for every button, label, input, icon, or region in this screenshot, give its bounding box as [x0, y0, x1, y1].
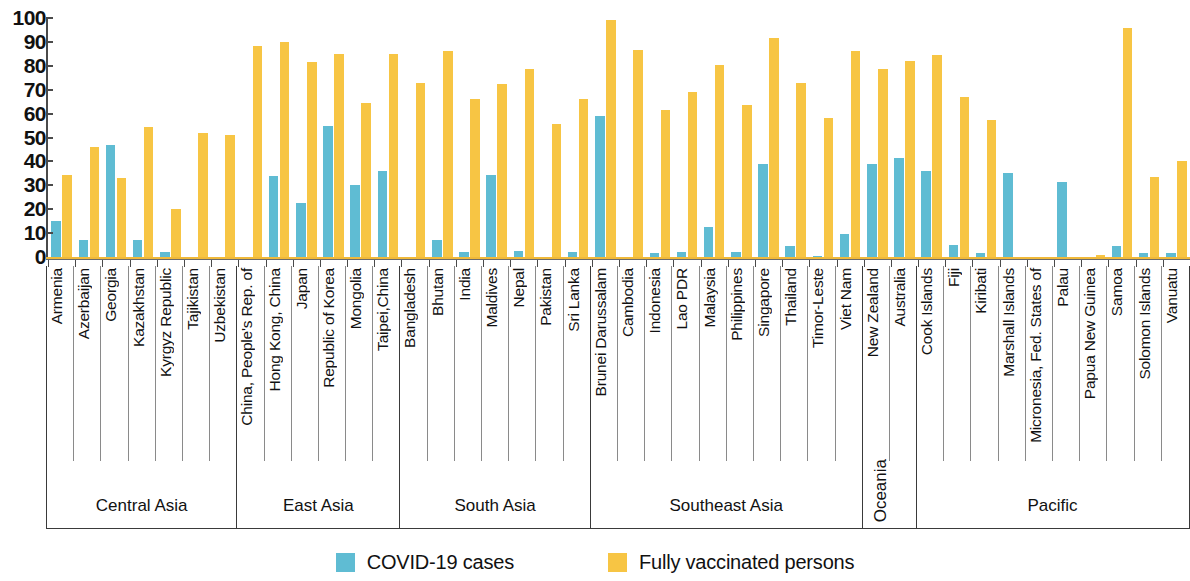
legend-item-cases[interactable]: COVID-19 cases: [336, 551, 514, 574]
y-axis-tick-mark: [46, 17, 53, 19]
bar-fully-vaccinated: [334, 54, 344, 257]
x-axis-tick-mark: [293, 260, 294, 267]
x-axis-tick-mark: [918, 260, 919, 267]
bar-group: [1136, 18, 1163, 257]
x-axis-tick-mark: [755, 260, 756, 267]
bar-group: [401, 18, 428, 257]
y-axis-tick-mark: [46, 89, 53, 91]
bar-covid-cases: [785, 246, 795, 257]
x-axis-tick-mark: [1136, 260, 1137, 267]
bar-group: [537, 18, 564, 257]
y-axis-tick-mark: [46, 184, 53, 186]
bar-group: [211, 18, 238, 257]
y-axis-tick-mark: [46, 113, 53, 115]
bar-fully-vaccinated: [389, 54, 399, 257]
region-cell-east-asia: East Asia: [236, 266, 399, 528]
bar-fully-vaccinated: [878, 69, 888, 257]
y-axis-tick-mark: [46, 208, 53, 210]
bar-group: [1163, 18, 1190, 257]
bar-group: [565, 18, 592, 257]
bar-group: [945, 18, 972, 257]
region-label: Pacific: [917, 496, 1188, 516]
x-axis-tick-mark: [646, 260, 647, 267]
region-bottom-rule: [46, 528, 1190, 529]
x-axis-tick-mark: [837, 260, 838, 267]
x-axis-tick-mark: [1000, 260, 1001, 267]
x-axis-tick-mark: [48, 260, 49, 267]
bar-fully-vaccinated: [769, 38, 779, 257]
x-axis-tick-mark: [238, 260, 239, 267]
x-axis-tick-mark: [510, 260, 511, 267]
bar-fully-vaccinated: [144, 127, 154, 257]
bar-fully-vaccinated: [905, 61, 915, 257]
region-cell-southeast-asia: Southeast Asia: [590, 266, 862, 528]
x-axis-tick-mark: [782, 260, 783, 267]
region-label: Oceania: [871, 459, 891, 522]
plot-area: [48, 18, 1190, 257]
bar-group: [130, 18, 157, 257]
y-axis-tick-label: 20: [2, 198, 46, 219]
bar-covid-cases: [106, 145, 116, 257]
legend-label: Fully vaccinated persons: [639, 551, 854, 574]
bar-group: [157, 18, 184, 257]
x-axis-tick-mark: [374, 260, 375, 267]
bar-covid-cases: [1112, 246, 1122, 257]
bar-covid-cases: [378, 171, 388, 257]
legend-item-vaccinated[interactable]: Fully vaccinated persons: [608, 551, 854, 574]
bar-fully-vaccinated: [824, 118, 834, 257]
bar-group: [864, 18, 891, 257]
y-axis-tick-mark: [46, 232, 53, 234]
bar-fully-vaccinated: [851, 51, 861, 257]
legend-swatch-icon: [608, 553, 627, 572]
region-label: Central Asia: [47, 496, 236, 516]
legend-swatch-icon: [336, 553, 355, 572]
x-axis-tick-mark: [592, 260, 593, 267]
bar-covid-cases: [867, 164, 877, 257]
bar-group: [483, 18, 510, 257]
bar-group: [510, 18, 537, 257]
x-axis-tick-mark: [429, 260, 430, 267]
bar-fully-vaccinated: [579, 99, 589, 257]
y-axis-tick-label: 0: [2, 246, 46, 267]
bar-fully-vaccinated: [1150, 177, 1160, 257]
x-axis-tick-mark: [945, 260, 946, 267]
x-axis-tick-mark: [483, 260, 484, 267]
bar-group: [891, 18, 918, 257]
y-axis-tick-label: 60: [2, 103, 46, 124]
bar-group: [646, 18, 673, 257]
bar-covid-cases: [704, 227, 714, 257]
bar-covid-cases: [323, 126, 333, 257]
y-axis-tick-label: 40: [2, 150, 46, 171]
x-axis-tick-mark: [75, 260, 76, 267]
bar-group: [293, 18, 320, 257]
region-cell-central-asia: Central Asia: [46, 266, 236, 528]
x-axis-tick-mark: [809, 260, 810, 267]
bar-group: [429, 18, 456, 257]
bar-group: [184, 18, 211, 257]
region-label: South Asia: [400, 496, 589, 516]
bar-group: [1081, 18, 1108, 257]
bar-fully-vaccinated: [280, 42, 290, 257]
bar-group: [1027, 18, 1054, 257]
bar-group: [1000, 18, 1027, 257]
bar-fully-vaccinated: [987, 120, 997, 257]
region-cell-south-asia: South Asia: [399, 266, 589, 528]
bar-group: [374, 18, 401, 257]
bar-group: [619, 18, 646, 257]
bar-covid-cases: [296, 203, 306, 257]
bar-fully-vaccinated: [606, 20, 616, 257]
bar-group: [320, 18, 347, 257]
chart-legend: COVID-19 casesFully vaccinated persons: [0, 545, 1190, 579]
bar-group: [238, 18, 265, 257]
bar-fully-vaccinated: [470, 99, 480, 257]
bar-fully-vaccinated: [253, 46, 263, 258]
bar-group: [782, 18, 809, 257]
x-axis-tick-mark: [537, 260, 538, 267]
bar-fully-vaccinated: [796, 83, 806, 257]
y-axis-tick-mark: [46, 41, 53, 43]
bar-fully-vaccinated: [688, 92, 698, 257]
bar-covid-cases: [1057, 182, 1067, 257]
bar-group: [592, 18, 619, 257]
y-axis-tick-label: 100: [2, 7, 46, 28]
bar-fully-vaccinated: [171, 209, 181, 257]
